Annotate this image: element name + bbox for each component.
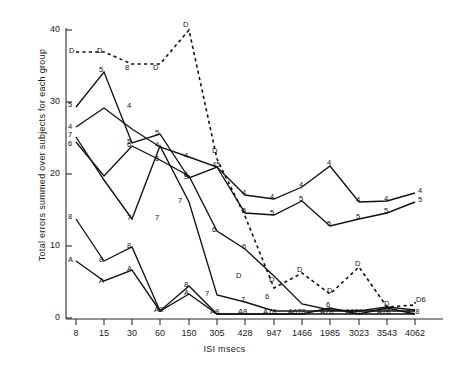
point-label: 8 xyxy=(125,64,129,72)
point-label: 7 xyxy=(127,214,131,222)
axis-lines xyxy=(66,28,443,325)
point-label: 5 xyxy=(418,196,422,204)
point-label: A78 xyxy=(263,308,276,316)
point-label: D xyxy=(236,272,241,280)
point-label: A78 xyxy=(406,308,419,316)
point-label: D xyxy=(297,266,302,274)
point-label: 4 xyxy=(184,152,188,160)
point-label: 5 xyxy=(384,207,388,215)
point-label: D xyxy=(327,287,332,295)
point-label: 8 xyxy=(127,242,131,250)
point-label: 6 xyxy=(212,226,216,234)
point-label: 7 xyxy=(241,296,245,304)
point-label: A8 xyxy=(238,308,247,316)
point-label: 5 xyxy=(327,220,331,228)
point-label: 5 xyxy=(68,101,72,109)
point-label: A78 xyxy=(320,308,333,316)
point-label: D xyxy=(69,47,74,55)
x-axis-title: ISI msecs xyxy=(0,344,449,354)
point-label: 4 xyxy=(242,189,246,197)
point-label: 5 xyxy=(356,213,360,221)
series-line-7 xyxy=(76,137,415,311)
point-label: 4 xyxy=(299,181,303,189)
point-label: 5 xyxy=(155,129,159,137)
point-label: 6 xyxy=(184,171,188,179)
point-label: 7 xyxy=(178,197,182,205)
point-label: 6 xyxy=(155,155,159,163)
point-label: A78 xyxy=(377,308,390,316)
point-label: A xyxy=(127,265,132,273)
point-label: A678 xyxy=(288,308,306,316)
y-tick-label-0: 0 xyxy=(26,312,60,322)
y-axis-title: Total errors summed over subjects for ea… xyxy=(37,25,47,285)
point-label: 5 xyxy=(99,66,103,74)
point-label: D xyxy=(355,260,360,268)
point-label: A8 xyxy=(210,308,219,316)
point-label: 4 xyxy=(270,193,274,201)
point-label: 7 xyxy=(205,290,209,298)
point-label: 45 xyxy=(212,161,220,169)
point-label: 4 xyxy=(356,196,360,204)
point-label: A xyxy=(184,289,189,297)
point-label: D6 xyxy=(416,296,426,304)
point-label: 6 xyxy=(127,141,131,149)
point-label: 4 xyxy=(384,195,388,203)
point-label: D xyxy=(97,47,102,55)
point-label: D xyxy=(212,147,217,155)
point-label: D xyxy=(153,64,158,72)
point-label: 7 xyxy=(155,214,159,222)
point-label: A xyxy=(68,256,73,264)
point-label: 8 xyxy=(99,256,103,264)
point-label: 6 xyxy=(68,140,72,148)
series-line-5 xyxy=(76,72,415,226)
point-label: 5 xyxy=(242,207,246,215)
point-label: A8 xyxy=(154,306,163,314)
point-label: 7 xyxy=(68,131,72,139)
point-label: D xyxy=(269,276,274,284)
point-label: 6 xyxy=(265,293,269,301)
x-tick-label-4062: 4062 xyxy=(394,328,436,338)
point-label: 6 xyxy=(242,243,246,251)
series-line-6 xyxy=(76,142,415,311)
point-label: 4 xyxy=(327,159,331,167)
point-label: 5 xyxy=(299,195,303,203)
point-label: 8 xyxy=(68,213,72,221)
chart-figure: 40 30 20 10 0 8 15 30 60 150 305 428 947… xyxy=(0,0,449,369)
point-label: 4 xyxy=(418,187,422,195)
point-label: 4 xyxy=(127,102,131,110)
point-label: D xyxy=(183,21,188,29)
point-label: A678 xyxy=(345,308,363,316)
point-label: 4 xyxy=(155,141,159,149)
point-label: A xyxy=(99,277,104,285)
point-label: 5 xyxy=(270,209,274,217)
